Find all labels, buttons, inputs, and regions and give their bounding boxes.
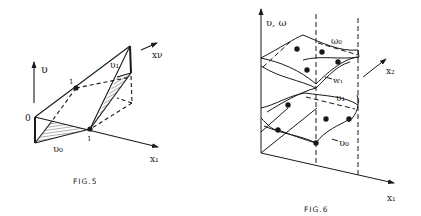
fig6-x1-label: x₁ bbox=[387, 193, 396, 203]
figure-6 bbox=[261, 9, 394, 183]
fig5-point-upper-label: 1 bbox=[69, 78, 73, 86]
fig5-v0-label: υ₀ bbox=[53, 143, 63, 154]
fig6-v0-label: υ₀ bbox=[339, 137, 349, 148]
fig5-point-lower-label: 1 bbox=[87, 135, 91, 143]
figures-canvas: υ xν x₁ 0 1 1 υ₁ υ₀ FIG.5 bbox=[0, 0, 421, 216]
w0-surface bbox=[261, 35, 359, 60]
point-lower bbox=[87, 126, 92, 131]
point-upper bbox=[73, 85, 78, 90]
fig5-caption: FIG.5 bbox=[73, 177, 98, 186]
fig5-origin-label: 0 bbox=[25, 113, 31, 123]
fig6-caption: FIG.6 bbox=[304, 205, 329, 214]
v0-hatched-region bbox=[36, 122, 90, 143]
x2-axis-arrow bbox=[363, 59, 386, 77]
v0-surface bbox=[261, 118, 348, 143]
fig6-w0-label: ω₀ bbox=[331, 36, 342, 46]
fig6-w1-label: w₁ bbox=[333, 76, 343, 85]
fig6-vw-label: υ, ω bbox=[266, 17, 287, 28]
fig6-v1-label: υ₁ bbox=[336, 93, 345, 103]
fig5-v-label: υ bbox=[41, 63, 48, 76]
fig5-v1-label: υ₁ bbox=[110, 60, 119, 70]
figure-5 bbox=[34, 43, 158, 147]
fig6-x2-label: x₂ bbox=[386, 66, 395, 76]
fig5-x1-label: x₁ bbox=[150, 154, 159, 164]
fig5-xnu-label: xν bbox=[152, 50, 163, 60]
x1-axis bbox=[261, 153, 394, 183]
x-nu-axis-arrow bbox=[141, 43, 157, 50]
